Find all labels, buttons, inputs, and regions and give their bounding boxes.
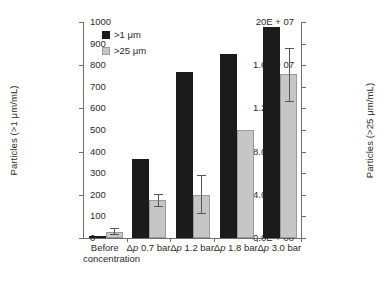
- bar-series-2: [237, 130, 254, 238]
- y-tick-right: [302, 87, 306, 88]
- chart-figure: Particles (>1 μm/mL) Particles (>25 μm/m…: [0, 0, 380, 283]
- y-tick-right: [302, 195, 306, 196]
- y-tick-right: [302, 108, 306, 109]
- x-category-label: Δp 1.2 bar: [170, 242, 214, 253]
- error-bar-line: [158, 194, 159, 206]
- y-tick-left: [79, 238, 83, 239]
- bar-series-1: [220, 54, 237, 238]
- bar-series-1: [176, 72, 193, 238]
- legend-entry: >1 μm: [102, 28, 146, 41]
- x-category-label: Δp 0.7 bar: [127, 242, 171, 253]
- y-tick-right: [302, 65, 306, 66]
- legend-label: >25 μm: [114, 45, 146, 56]
- legend-entry: >25 μm: [102, 44, 146, 57]
- error-bar-cap-bottom: [285, 101, 294, 102]
- y-tick-left: [79, 65, 83, 66]
- y-tick-right: [302, 22, 306, 23]
- y-tick-right: [302, 152, 306, 153]
- y-tick-left: [79, 108, 83, 109]
- bar-series-1: [263, 27, 280, 238]
- error-bar-cap-top: [154, 194, 163, 195]
- x-axis-tick: [301, 238, 302, 242]
- error-bar-line: [289, 48, 290, 101]
- legend-swatch-icon: [102, 31, 110, 39]
- y-axis-right-title: Particles (>25 μm/mL): [364, 66, 375, 196]
- error-bar-cap-top: [110, 228, 119, 229]
- legend-swatch-icon: [102, 47, 110, 55]
- x-category-label: Beforeconcentration: [83, 242, 127, 264]
- y-axis-left-title: Particles (>1 μm/mL): [8, 66, 19, 196]
- y-tick-left: [79, 195, 83, 196]
- legend-label: >1 μm: [114, 29, 141, 40]
- y-tick-right: [302, 44, 306, 45]
- bar-series-1: [89, 236, 106, 238]
- error-bar-line: [201, 175, 202, 213]
- error-bar-cap-bottom: [154, 206, 163, 207]
- bar-group: [258, 22, 302, 238]
- y-tick-left: [79, 152, 83, 153]
- x-category-label: Δp 1.8 bar: [214, 242, 258, 253]
- bar-series-1: [132, 159, 149, 238]
- y-tick-right: [302, 216, 306, 217]
- x-category-label: Δp 3.0 bar: [257, 242, 301, 253]
- y-tick-right: [302, 238, 306, 239]
- y-tick-right: [302, 130, 306, 131]
- chart-legend: >1 μm>25 μm: [102, 28, 146, 60]
- bar-group: [215, 22, 259, 238]
- error-bar-cap-top: [285, 48, 294, 49]
- bar-group: [171, 22, 215, 238]
- error-bar-cap-bottom: [110, 234, 119, 235]
- error-bar-cap-top: [197, 175, 206, 176]
- error-bar-cap-bottom: [197, 213, 206, 214]
- y-tick-right: [302, 173, 306, 174]
- y-tick-left: [79, 22, 83, 23]
